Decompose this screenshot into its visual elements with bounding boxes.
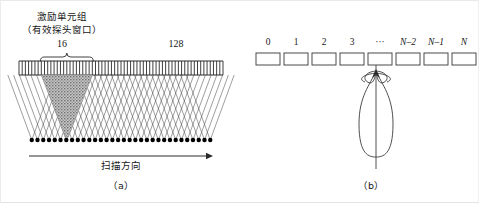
caption-panel-a: （a） [71,181,171,191]
total-element-count: 128 [151,39,201,49]
figure-container: 激励单元组 （有效探头窗口） 16 128 扫描方向 （a） 0123···N–… [0,0,479,203]
element-index-label: 2 [311,37,337,47]
panel-a-phased-array-scan: 激励单元组 （有效探头窗口） 16 128 扫描方向 （a） [1,1,241,203]
caption-panel-b: （b） [321,181,421,191]
excitation-group-label-line1: 激励单元组 [1,12,123,22]
panel-b-graphics [241,1,479,203]
panel-b-beam-pattern: 0123···N–2N–1N （b） [241,1,479,203]
element-index-label: ··· [367,37,393,47]
aperture-element-count: 16 [1,39,123,49]
element-index-label: 3 [339,37,365,47]
element-index-label: N–2 [395,37,421,47]
element-index-label: 0 [255,37,281,47]
element-index-label: N–1 [423,37,449,47]
element-index-label: 1 [283,37,309,47]
scan-direction-label: 扫描方向 [21,161,221,171]
excitation-group-label-line2: （有效探头窗口） [1,25,123,35]
element-index-label: N [451,37,477,47]
